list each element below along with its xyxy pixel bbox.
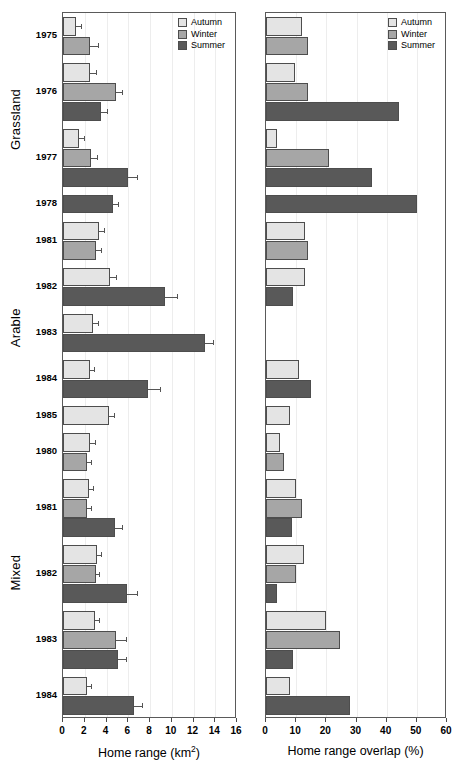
legend-swatch-summer xyxy=(178,41,187,50)
legend-right: AutumnWinterSummer xyxy=(388,17,435,52)
x-tick xyxy=(446,718,447,722)
error-bar xyxy=(110,277,117,278)
bar-autumn xyxy=(63,611,95,630)
error-bar xyxy=(90,46,98,47)
x-tick xyxy=(386,718,387,722)
bar-summer xyxy=(63,195,113,214)
panel-home-range-overlap xyxy=(265,12,446,718)
legend-item-winter: Winter xyxy=(178,29,225,41)
year-label-1983-12: 1983 xyxy=(36,633,57,644)
habitat-group-mixed: Mixed xyxy=(6,441,24,705)
year-label-1985-8: 1985 xyxy=(36,409,57,420)
bar-autumn xyxy=(63,545,97,564)
x-tick-label: 0 xyxy=(250,725,280,736)
legend-label-winter: Winter xyxy=(401,30,427,39)
bar-autumn xyxy=(63,677,87,696)
error-bar-cap xyxy=(177,294,178,299)
bar-autumn xyxy=(266,406,290,425)
gridline xyxy=(150,13,151,717)
bar-autumn xyxy=(266,268,305,287)
bar-summer xyxy=(63,584,127,603)
x-tick xyxy=(149,718,150,722)
error-bar-cap xyxy=(122,525,123,530)
error-bar xyxy=(165,297,177,298)
x-tick-label: 16 xyxy=(221,725,251,736)
x-axis-title-0: Home range (km2) xyxy=(62,744,236,760)
legend-label-autumn: Autumn xyxy=(191,18,222,27)
legend-label-winter: Winter xyxy=(191,30,217,39)
error-bar-cap xyxy=(99,572,100,577)
error-bar-cap xyxy=(84,136,85,141)
error-bar xyxy=(127,594,137,595)
error-bar-cap xyxy=(116,275,117,280)
bar-summer xyxy=(63,102,101,121)
bar-summer xyxy=(266,168,372,187)
year-label-1982-11: 1982 xyxy=(36,567,57,578)
error-bar-cap xyxy=(97,155,98,160)
error-bar-cap xyxy=(101,248,102,253)
x-tick xyxy=(84,718,85,722)
bar-autumn xyxy=(63,360,90,379)
bar-autumn xyxy=(63,129,79,148)
year-label-1981-4: 1981 xyxy=(36,234,57,245)
error-bar-cap xyxy=(213,340,214,345)
error-bar-cap xyxy=(101,552,102,557)
x-tick xyxy=(416,718,417,722)
legend-item-autumn: Autumn xyxy=(178,17,225,29)
x-tick-label: 10 xyxy=(280,725,310,736)
error-bar-cap xyxy=(98,43,99,48)
x-tick xyxy=(193,718,194,722)
year-label-1977-2: 1977 xyxy=(36,151,57,162)
year-label-1976-1: 1976 xyxy=(36,85,57,96)
year-label-1980-9: 1980 xyxy=(36,445,57,456)
error-bar-cap xyxy=(114,413,115,418)
bar-autumn xyxy=(63,17,76,36)
bar-autumn xyxy=(266,222,305,241)
habitat-group-grassland: Grassland xyxy=(6,25,24,213)
error-bar xyxy=(148,389,160,390)
bar-winter xyxy=(63,37,90,56)
x-tick xyxy=(236,718,237,722)
bar-winter xyxy=(63,149,91,168)
bar-winter xyxy=(63,241,96,260)
error-bar-cap xyxy=(91,684,92,689)
legend-item-summer: Summer xyxy=(178,40,225,52)
year-label-1981-10: 1981 xyxy=(36,501,57,512)
bar-summer xyxy=(63,287,165,306)
year-label-1982-5: 1982 xyxy=(36,280,57,291)
bar-autumn xyxy=(266,479,296,498)
error-bar xyxy=(134,706,143,707)
bar-autumn xyxy=(63,222,99,241)
habitat-group-arable: Arable xyxy=(6,230,24,425)
legend-swatch-winter xyxy=(178,30,187,39)
bar-autumn xyxy=(266,611,326,630)
x-tick xyxy=(325,718,326,722)
bar-autumn xyxy=(63,314,93,333)
bar-autumn xyxy=(63,63,90,82)
panel-home-range xyxy=(62,12,236,718)
gridline xyxy=(172,13,173,717)
bar-summer xyxy=(266,696,350,715)
bar-winter xyxy=(266,453,284,472)
legend-swatch-winter xyxy=(388,30,397,39)
bar-winter xyxy=(63,453,87,472)
x-tick xyxy=(106,718,107,722)
error-bar-cap xyxy=(91,460,92,465)
error-bar-cap xyxy=(122,90,123,95)
error-bar-cap xyxy=(99,618,100,623)
bar-summer xyxy=(266,287,293,306)
x-tick xyxy=(356,718,357,722)
bar-summer xyxy=(266,380,311,399)
bar-autumn xyxy=(266,677,290,696)
figure-root: 1975197619771978198119821983198419851980… xyxy=(0,0,459,777)
bar-winter xyxy=(266,37,308,56)
year-label-1984-13: 1984 xyxy=(36,689,57,700)
error-bar-cap xyxy=(137,175,138,180)
error-bar-cap xyxy=(107,109,108,114)
x-tick xyxy=(265,718,266,722)
x-axis-title-tail: ) xyxy=(196,746,200,760)
bar-summer xyxy=(266,102,399,121)
x-tick xyxy=(62,718,63,722)
error-bar-cap xyxy=(137,591,138,596)
error-bar-cap xyxy=(91,506,92,511)
